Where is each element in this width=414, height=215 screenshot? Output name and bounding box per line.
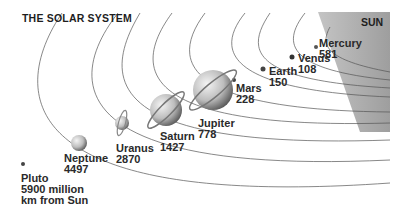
label-pluto: Pluto5900 millionkm from Sun [21, 173, 88, 206]
label-saturn: Saturn1427 [160, 131, 195, 153]
planet-mercury [314, 45, 318, 49]
label-mars: Mars228 [236, 83, 262, 105]
planet-earth [261, 67, 266, 72]
label-earth: Earth150 [269, 66, 297, 88]
planet-jupiter [186, 65, 241, 114]
planet-uranus [115, 110, 129, 137]
planet-venus [290, 55, 295, 60]
planet-saturn [144, 88, 188, 132]
label-neptune: Neptune4497 [64, 153, 108, 175]
planet-pluto [21, 162, 25, 166]
planet-neptune [71, 135, 87, 151]
solar-system-diagram: THE SOLAR SYSTEM SUN Mercury581 Venus108… [0, 0, 414, 215]
label-venus: Venus108 [298, 53, 330, 75]
label-uranus: Uranus2870 [116, 143, 154, 165]
diagram-title: THE SOLAR SYSTEM [22, 12, 132, 24]
label-jupiter: Jupiter778 [198, 118, 235, 140]
sun-label: SUN [361, 16, 383, 28]
